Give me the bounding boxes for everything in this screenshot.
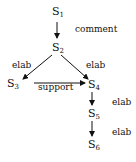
node-s3: S3 xyxy=(7,78,19,93)
edge-label-elab-s4-s5: elab xyxy=(112,98,131,107)
edge-label-support: support xyxy=(38,83,73,92)
edge-label-comment: comment xyxy=(75,25,117,34)
edge-s2-s4 xyxy=(61,55,88,79)
node-s2: S2 xyxy=(52,42,64,57)
node-s4: S4 xyxy=(88,79,100,94)
edge-label-elab-right: elab xyxy=(86,61,105,70)
edge-label-elab-s5-s6: elab xyxy=(112,128,131,137)
edge-label-elab-left: elab xyxy=(12,61,31,70)
node-s1: S1 xyxy=(52,6,64,21)
node-s5: S5 xyxy=(88,108,100,123)
node-s6: S6 xyxy=(88,139,100,154)
